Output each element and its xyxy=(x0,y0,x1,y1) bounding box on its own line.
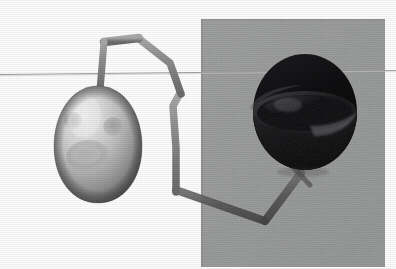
scene-svg xyxy=(0,0,396,269)
egg-object xyxy=(54,86,142,203)
bowl-contact-shadow xyxy=(277,167,329,177)
egg-grain-overlay xyxy=(54,86,142,203)
render-canvas xyxy=(0,0,396,269)
arm-grain-overlay-post xyxy=(100,42,104,90)
